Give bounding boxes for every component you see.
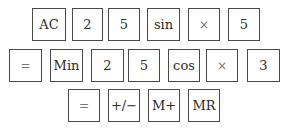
key-memory-plus[interactable]: M+ xyxy=(148,89,180,122)
key-memory-recall[interactable]: MR xyxy=(188,89,220,122)
key-5[interactable]: 5 xyxy=(228,8,260,41)
key-equals[interactable]: = xyxy=(68,89,100,122)
key-equals[interactable]: = xyxy=(9,49,42,82)
key-3[interactable]: 3 xyxy=(247,49,280,82)
key-5[interactable]: 5 xyxy=(128,49,160,82)
key-sin[interactable]: sin xyxy=(147,8,180,41)
key-cos[interactable]: cos xyxy=(168,49,200,82)
key-multiply[interactable]: × xyxy=(206,49,238,82)
key-2[interactable]: 2 xyxy=(91,49,124,82)
key-min[interactable]: Min xyxy=(50,49,83,82)
key-plus-minus[interactable]: +/− xyxy=(108,89,140,122)
key-2[interactable]: 2 xyxy=(72,8,103,41)
key-5[interactable]: 5 xyxy=(108,8,140,41)
key-ac[interactable]: AC xyxy=(32,8,66,41)
key-multiply[interactable]: × xyxy=(188,8,220,41)
